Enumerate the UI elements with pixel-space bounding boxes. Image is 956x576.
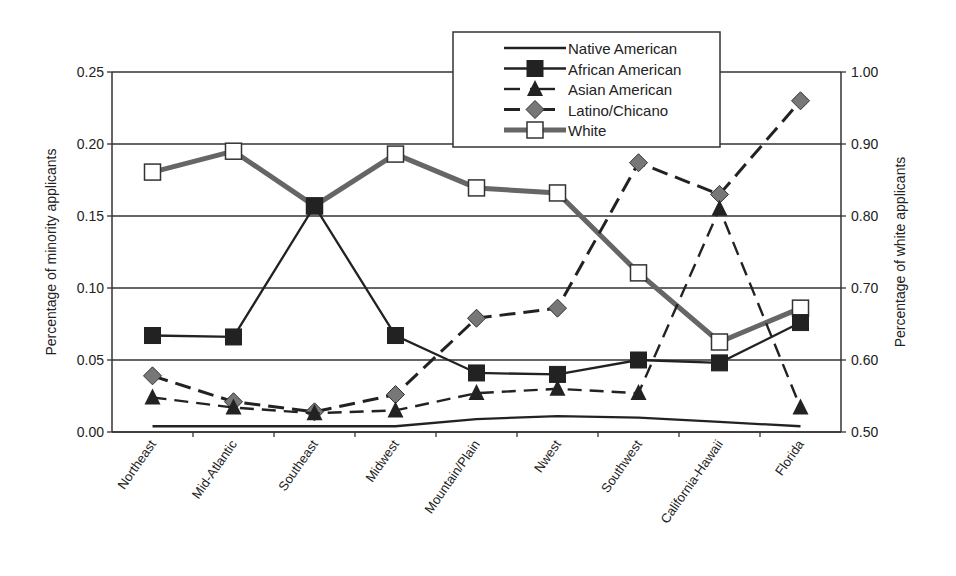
series-african-american (145, 198, 809, 382)
left-tick-label: 0.20 (77, 136, 104, 152)
line-chart: 0.000.050.100.150.200.25 0.500.600.700.8… (0, 0, 956, 576)
diamond-marker (630, 154, 648, 172)
left-tick-label: 0.00 (77, 424, 104, 440)
left-axis-ticks: 0.000.050.100.150.200.25 (77, 64, 112, 440)
open-square-marker (550, 185, 566, 201)
open-square-marker (469, 180, 485, 196)
right-tick-label: 0.70 (851, 280, 878, 296)
left-axis-title: Percentage of minority applicants (43, 149, 59, 356)
x-tick-label: California-Hawaii (657, 437, 726, 526)
legend-label: White (568, 122, 606, 139)
triangle-marker (631, 384, 647, 400)
right-axis-title: Percentage of white applicants (892, 157, 908, 348)
open-square-marker (712, 334, 728, 350)
x-axis-labels: NortheastMid-AtlanticSoutheastMidwestMou… (114, 432, 807, 526)
right-tick-label: 0.60 (851, 352, 878, 368)
x-tick-label: Mountain/Plain (421, 437, 483, 516)
triangle-marker (712, 200, 728, 216)
x-tick-label: Florida (772, 436, 808, 478)
legend-label: Latino/Chicano (568, 102, 668, 119)
x-tick-label: Mid-Atlantic (189, 437, 241, 502)
right-tick-label: 1.00 (851, 64, 878, 80)
right-tick-label: 0.50 (851, 424, 878, 440)
right-tick-label: 0.80 (851, 208, 878, 224)
square-marker (307, 198, 323, 214)
left-tick-label: 0.25 (77, 64, 104, 80)
open-square-marker (388, 146, 404, 162)
right-tick-label: 0.90 (851, 136, 878, 152)
x-tick-label: Southwest (598, 437, 645, 496)
x-tick-label: Nwest (531, 437, 564, 476)
square-marker (712, 355, 728, 371)
triangle-marker (793, 399, 809, 415)
open-square-marker (145, 164, 161, 180)
x-tick-label: Northeast (114, 437, 159, 492)
legend: Native AmericanAfrican AmericanAsian Ame… (453, 32, 720, 147)
right-axis-ticks: 0.500.600.700.800.901.00 (841, 64, 878, 440)
series-native-american (153, 416, 801, 426)
triangle-marker (145, 388, 161, 404)
square-marker (469, 365, 485, 381)
square-marker (631, 352, 647, 368)
square-marker (388, 328, 404, 344)
diamond-marker (387, 386, 405, 404)
diamond-marker (549, 299, 567, 317)
square-marker (145, 328, 161, 344)
open-square-marker (793, 300, 809, 316)
legend-label: African American (568, 61, 681, 78)
diamond-marker (792, 92, 810, 110)
left-tick-label: 0.10 (77, 280, 104, 296)
diamond-marker (144, 367, 162, 385)
legend-label: Native American (568, 40, 677, 57)
open-square-marker (226, 143, 242, 159)
x-tick-label: Midwest (362, 437, 402, 485)
square-marker (527, 61, 543, 77)
square-marker (793, 315, 809, 331)
left-tick-label: 0.15 (77, 208, 104, 224)
left-tick-label: 0.05 (77, 352, 104, 368)
legend-label: Asian American (568, 81, 672, 98)
legend-item: African American (504, 61, 681, 78)
open-square-marker (527, 122, 543, 138)
square-marker (226, 329, 242, 345)
x-tick-label: Southeast (275, 437, 321, 494)
open-square-marker (631, 265, 647, 281)
